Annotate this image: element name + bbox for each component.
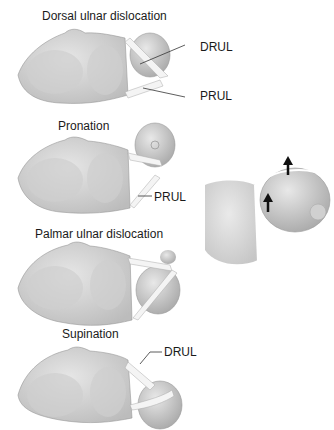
panel-palmar-ulnar-dislocation xyxy=(18,242,180,325)
caption-dorsal-ulnar-dislocation: Dorsal ulnar dislocation xyxy=(42,9,167,23)
leader-line xyxy=(140,352,150,364)
caption-palmar-ulnar-dislocation: Palmar ulnar dislocation xyxy=(35,227,163,241)
label-drul: DRUL xyxy=(164,345,197,359)
label-drul: DRUL xyxy=(200,40,233,54)
leader-line xyxy=(143,88,185,97)
label-prul: PRUL xyxy=(154,190,186,204)
panel-dorsal-ulnar-dislocation xyxy=(18,29,185,103)
diagram-canvas xyxy=(0,0,334,430)
caption-pronation: Pronation xyxy=(58,119,109,133)
panel-supination xyxy=(18,347,182,429)
panel-detail-arrows xyxy=(205,156,330,264)
panel-pronation xyxy=(18,123,175,213)
label-prul: PRUL xyxy=(200,89,232,103)
caption-supination: Supination xyxy=(62,327,119,341)
